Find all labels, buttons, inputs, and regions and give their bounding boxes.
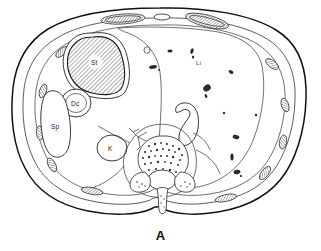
figure-caption: A <box>0 228 321 244</box>
label-spleen: Sp <box>51 123 60 131</box>
figure-root: St Dc Sp K Li <box>0 0 321 251</box>
label-descending-colon: Dc <box>71 100 80 107</box>
spinal-canal <box>148 170 176 190</box>
label-stomach: St <box>91 59 98 66</box>
label-kidney: K <box>108 145 113 152</box>
spinous-process <box>157 188 168 214</box>
abdominal-cross-section-svg: St Dc Sp K Li <box>0 0 321 251</box>
label-liver: Li <box>196 59 201 66</box>
xiphoid-process <box>154 14 170 20</box>
